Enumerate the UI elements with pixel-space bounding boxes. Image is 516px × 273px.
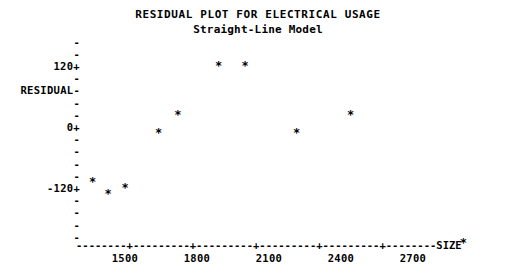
- data-point-marker: *: [104, 190, 112, 198]
- data-point-marker: *: [241, 62, 249, 70]
- x-axis-tick-label: 2400: [328, 253, 355, 264]
- residual-plot-figure: RESIDUAL PLOT FOR ELECTRICAL USAGE Strai…: [0, 0, 516, 273]
- data-point-marker: *: [174, 111, 182, 119]
- data-point-marker: *: [89, 178, 97, 186]
- x-axis-tick-label: 2100: [256, 253, 283, 264]
- x-axis-tick-label: 1800: [184, 253, 211, 264]
- data-point-marker: *: [293, 129, 301, 137]
- x-axis-tick-label: 1500: [112, 253, 139, 264]
- x-axis-line: --------+---------+---------+---------+-…: [76, 240, 462, 251]
- data-point-marker: *: [155, 129, 163, 137]
- data-point-marker: *: [121, 184, 129, 192]
- data-point-marker: *: [347, 111, 355, 119]
- x-axis-tick-label: 2700: [400, 253, 427, 264]
- data-point-marker: *: [215, 62, 223, 70]
- data-points-layer: **********: [0, 0, 516, 273]
- x-axis-tick-labels: 15001800210024002700: [0, 253, 516, 267]
